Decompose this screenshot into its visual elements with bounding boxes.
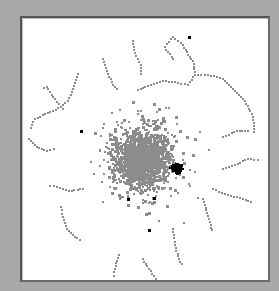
plot-panel [20, 16, 270, 282]
network-scatter-canvas [22, 18, 268, 280]
